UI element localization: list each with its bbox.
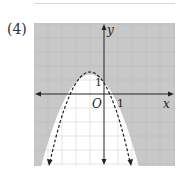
graph: y x O 1 1 <box>0 0 185 177</box>
origin-label: O <box>92 97 102 111</box>
y-tick-1-label: 1 <box>95 76 102 89</box>
x-tick-1-label: 1 <box>117 97 124 110</box>
x-axis-label: x <box>163 97 170 111</box>
y-axis-label: y <box>106 23 114 37</box>
